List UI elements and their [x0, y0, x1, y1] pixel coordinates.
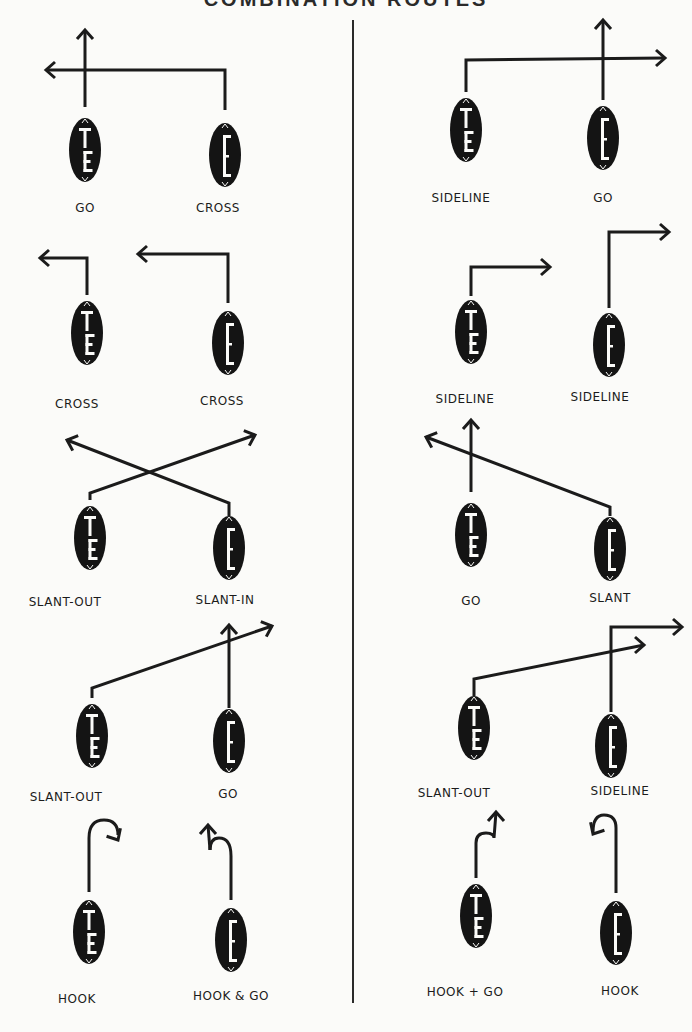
football-te-icon	[460, 884, 492, 948]
route-line	[476, 812, 496, 878]
route-te: CROSS	[40, 250, 103, 411]
football-e-icon	[600, 901, 632, 965]
arrowhead-icon	[107, 828, 125, 844]
football-e-icon	[594, 517, 626, 581]
route-label: CROSS	[55, 397, 99, 411]
route-te: HOOK	[58, 820, 125, 1006]
combination-left-row-4: SLANT-OUTGO	[30, 618, 275, 804]
route-line	[138, 254, 228, 303]
football-te-icon	[455, 503, 487, 567]
route-e: GO	[213, 625, 245, 801]
route-line	[426, 437, 610, 516]
route-line	[90, 435, 255, 500]
route-line	[609, 232, 669, 308]
route-label: SLANT	[589, 591, 631, 605]
football-e-icon	[213, 516, 245, 580]
route-te: SLANT-OUT	[30, 618, 275, 804]
route-label: GO	[593, 191, 613, 205]
play-diagram-canvas: GOCROSSSIDELINEGOCROSSCROSSSIDELINESIDEL…	[0, 0, 692, 1032]
route-line	[210, 838, 231, 900]
combination-left-row-2: CROSSCROSS	[40, 246, 244, 411]
route-line	[471, 267, 550, 296]
route-label: HOOK + GO	[427, 985, 504, 999]
route-label: GO	[75, 201, 95, 215]
route-label: SIDELINE	[591, 784, 650, 798]
combination-right-row-1: SIDELINEGO	[432, 20, 665, 205]
route-label: SLANT-IN	[196, 593, 255, 607]
combination-right-row-3: GOSLANT	[423, 420, 631, 608]
combination-right-row-5: HOOK + GOHOOK	[427, 812, 640, 999]
combination-left-row-3: SLANT-OUTSLANT-IN	[29, 427, 258, 609]
route-combinations: GOCROSSSIDELINEGOCROSSCROSSSIDELINESIDEL…	[29, 20, 682, 1006]
football-e-icon	[209, 123, 241, 187]
route-line	[593, 815, 616, 893]
football-te-icon	[450, 98, 482, 162]
route-e: SIDELINE	[571, 224, 669, 404]
football-te-icon	[455, 300, 487, 364]
route-e: HOOK & GO	[193, 825, 269, 1003]
route-e: HOOK	[586, 815, 639, 998]
route-label: SIDELINE	[571, 390, 630, 404]
football-e-icon	[593, 313, 625, 377]
route-label: SIDELINE	[436, 392, 495, 406]
combination-left-row-1: GOCROSS	[46, 30, 241, 215]
route-e: SLANT	[423, 429, 631, 605]
football-e-icon	[215, 908, 247, 972]
route-label: HOOK	[601, 984, 639, 998]
route-e: GO	[587, 20, 619, 205]
arrowhead-icon	[586, 822, 604, 838]
football-e-icon	[213, 709, 245, 773]
football-te-icon	[76, 704, 108, 768]
football-te-icon	[74, 506, 106, 570]
route-te: SIDELINE	[436, 259, 550, 406]
route-line	[92, 626, 272, 698]
route-line	[466, 58, 665, 92]
football-e-icon	[595, 714, 627, 778]
route-label: SLANT-OUT	[418, 786, 491, 800]
route-te: SIDELINE	[432, 50, 665, 205]
route-te: GO	[69, 30, 101, 215]
route-line	[611, 627, 682, 712]
football-te-icon	[458, 696, 490, 760]
route-label: HOOK	[58, 992, 96, 1006]
route-label: SLANT-OUT	[30, 790, 103, 804]
football-te-icon	[69, 118, 101, 182]
route-te: HOOK + GO	[427, 812, 504, 999]
combination-right-row-4: SLANT-OUTSIDELINE	[418, 619, 682, 800]
football-e-icon	[587, 106, 619, 170]
route-te: GO	[455, 420, 487, 608]
route-label: GO	[461, 594, 481, 608]
route-label: SIDELINE	[432, 191, 491, 205]
route-e: CROSS	[138, 246, 244, 408]
route-label: CROSS	[200, 394, 244, 408]
route-line	[474, 645, 644, 696]
football-te-icon	[71, 301, 103, 365]
route-line	[46, 70, 225, 110]
route-line	[89, 820, 118, 892]
route-label: CROSS	[196, 201, 240, 215]
football-te-icon	[73, 900, 105, 964]
route-label: SLANT-OUT	[29, 595, 102, 609]
route-label: HOOK & GO	[193, 989, 269, 1003]
combination-left-row-5: HOOKHOOK & GO	[58, 820, 269, 1006]
route-label: GO	[218, 787, 238, 801]
football-e-icon	[212, 311, 244, 375]
combination-right-row-2: SIDELINESIDELINE	[436, 224, 669, 406]
